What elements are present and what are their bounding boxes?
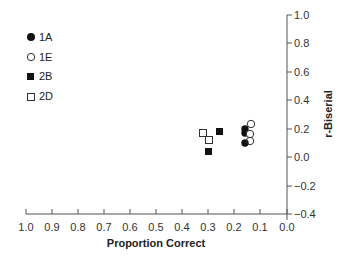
data-point-open-circle [247, 120, 254, 127]
data-point-filled-square [205, 148, 212, 155]
y-tick-label: 0.6 [294, 66, 309, 78]
legend: 1A 1E 2B 2D [27, 31, 53, 102]
x-tick-label: 0.1 [252, 221, 267, 233]
legend-label-1a: 1A [39, 31, 53, 43]
x-tick-label: 0.7 [96, 221, 111, 233]
x-ticks [26, 209, 287, 214]
filled-square-icon [27, 73, 34, 80]
x-tick-label: 0.2 [226, 221, 241, 233]
data-point-open-square [206, 137, 213, 144]
y-tick-label: 0.0 [294, 151, 309, 163]
legend-label-2d: 2D [39, 90, 53, 102]
y-tick-label: −0.2 [294, 180, 316, 192]
legend-label-1e: 1E [39, 51, 52, 63]
data-point-filled-circle [241, 139, 248, 146]
legend-label-2b: 2B [39, 70, 52, 82]
y-tick-label: 0.4 [294, 94, 309, 106]
x-tick-label: 0.3 [200, 221, 215, 233]
x-tick-label: 1.0 [18, 221, 33, 233]
series-2d [200, 130, 213, 144]
filled-circle-icon [27, 33, 35, 41]
x-axis-title: Proportion Correct [107, 237, 206, 249]
y-axis-title: r-Biserial [322, 90, 334, 138]
x-tick-label: 0.6 [122, 221, 137, 233]
y-tick-label: 1.0 [294, 9, 309, 21]
data-point-open-circle [246, 130, 253, 137]
open-square-icon [28, 94, 35, 101]
x-tick-label: 0.5 [148, 221, 163, 233]
data-point-filled-square [216, 128, 223, 135]
x-tick-label: 0.9 [44, 221, 59, 233]
scatter-chart: 1.0 0.9 0.8 0.7 0.6 0.5 0.4 0.3 0.2 0.1 … [0, 0, 343, 259]
x-tick-label: 0.0 [279, 221, 294, 233]
data-point-open-square [200, 130, 207, 137]
y-tick-label: 0.2 [294, 123, 309, 135]
y-tick-labels: 1.0 0.8 0.6 0.4 0.2 0.0 −0.2 −0.4 [294, 9, 316, 220]
y-ticks [287, 15, 292, 214]
x-tick-labels: 1.0 0.9 0.8 0.7 0.6 0.5 0.4 0.3 0.2 0.1 … [18, 221, 294, 233]
x-tick-label: 0.8 [70, 221, 85, 233]
open-circle-icon [27, 53, 34, 60]
x-tick-label: 0.4 [174, 221, 189, 233]
y-tick-label: −0.4 [294, 208, 316, 220]
y-tick-label: 0.8 [294, 37, 309, 49]
